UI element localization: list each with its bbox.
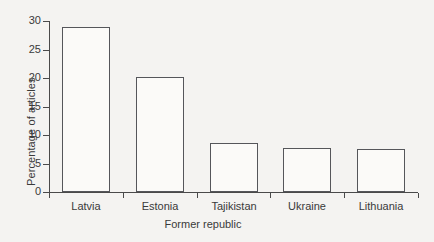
y-tick-mark — [43, 50, 49, 51]
y-tick-mark — [43, 135, 49, 136]
x-tick-mark — [197, 193, 198, 198]
bar-tajikistan — [210, 143, 258, 192]
x-category-label-tajikistan: Tajikistan — [197, 200, 271, 213]
bar-ukraine — [283, 148, 331, 192]
y-tick-label: 10 — [11, 129, 41, 140]
x-axis-line — [49, 192, 418, 193]
y-tick-label-text: 5 — [15, 158, 41, 169]
x-tick-mark — [123, 193, 124, 198]
x-category-label-estonia: Estonia — [123, 200, 197, 213]
y-tick-label-text: 20 — [15, 72, 41, 83]
y-axis-line — [49, 21, 50, 193]
y-tick-label: 30 — [11, 15, 41, 26]
y-tick-label: 5 — [11, 158, 41, 169]
y-tick-label: 25 — [11, 44, 41, 55]
y-tick-mark — [43, 107, 49, 108]
x-category-label-latvia: Latvia — [49, 200, 123, 213]
y-tick-label-text: 30 — [15, 15, 41, 26]
y-tick-label: 0 — [11, 186, 41, 197]
x-tick-mark — [344, 193, 345, 198]
x-tick-mark — [270, 193, 271, 198]
y-tick-label: 15 — [11, 101, 41, 112]
bar-lithuania — [357, 149, 405, 192]
x-category-label-lithuania: Lithuania — [344, 200, 418, 213]
y-tick-label-text: 25 — [15, 44, 41, 55]
y-tick-label-text: 10 — [15, 129, 41, 140]
bar-latvia — [62, 27, 110, 192]
x-axis-title: Former republic — [0, 218, 434, 231]
y-tick-label-text: 0 — [15, 186, 41, 197]
x-category-label-ukraine: Ukraine — [270, 200, 344, 213]
y-tick-label-text: 15 — [15, 101, 41, 112]
y-tick-mark — [43, 164, 49, 165]
x-tick-mark — [49, 193, 50, 198]
bar-estonia — [136, 77, 184, 192]
x-tick-mark — [418, 193, 419, 198]
y-tick-mark — [43, 78, 49, 79]
y-tick-mark — [43, 21, 49, 22]
y-tick-label: 20 — [11, 72, 41, 83]
bar-chart-figure: Percentage of articles 051015202530 Latv… — [0, 0, 434, 242]
